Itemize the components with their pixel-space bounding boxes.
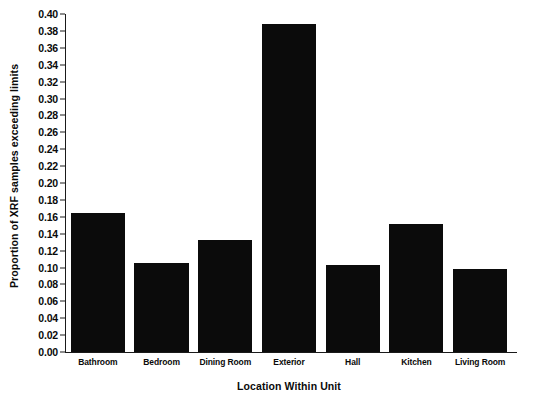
bar	[198, 240, 252, 352]
bar	[71, 213, 125, 352]
bar	[262, 24, 316, 352]
y-axis-tick-label: 0.34	[38, 59, 58, 71]
bar-slot	[257, 14, 321, 352]
plot-area	[66, 14, 512, 352]
bar-slot	[448, 14, 512, 352]
x-axis-tick-label: Dining Room	[199, 357, 251, 367]
bar-slot	[385, 14, 449, 352]
y-axis-tick-label: 0.20	[38, 177, 58, 189]
bar-slot	[130, 14, 194, 352]
y-axis-tick-label: 0.24	[38, 143, 58, 155]
bar-slot	[66, 14, 130, 352]
y-axis-tick-label: 0.00	[38, 346, 58, 358]
y-axis-tick-label: 0.10	[38, 262, 58, 274]
bar-slot	[193, 14, 257, 352]
bar-chart-figure: Proportion of XRF samples exceeding limi…	[0, 0, 536, 405]
bar-slot	[321, 14, 385, 352]
y-axis-tick-label: 0.02	[38, 329, 58, 341]
x-axis-tick-label: Bathroom	[78, 357, 117, 367]
y-axis-tick-label: 0.36	[38, 42, 58, 54]
y-axis-tick-label: 0.04	[38, 312, 58, 324]
y-axis-tick-label: 0.28	[38, 109, 58, 121]
y-axis-title: Proportion of XRF samples exceeding limi…	[2, 0, 26, 352]
y-axis-tick-label: 0.38	[38, 25, 58, 37]
x-axis-tick-label: Living Room	[455, 357, 505, 367]
bar	[326, 265, 380, 352]
y-axis-tick-label: 0.14	[38, 228, 58, 240]
y-axis-tick-label: 0.06	[38, 295, 58, 307]
y-axis-tick-label: 0.26	[38, 126, 58, 138]
y-axis-tick-label: 0.12	[38, 245, 58, 257]
x-axis-line	[65, 352, 517, 353]
y-axis-tick-labels: 0.000.020.040.060.080.100.120.140.160.18…	[24, 8, 58, 360]
x-axis-tick-label: Kitchen	[401, 357, 431, 367]
x-axis-title: Location Within Unit	[66, 380, 512, 392]
y-axis-tick-label: 0.22	[38, 160, 58, 172]
y-axis-tick-label: 0.16	[38, 211, 58, 223]
y-axis-tick-label: 0.40	[38, 8, 58, 20]
y-axis-title-text: Proportion of XRF samples exceeding limi…	[8, 64, 20, 288]
x-axis-tick-label: Exterior	[273, 357, 304, 367]
y-axis-tick-label: 0.08	[38, 278, 58, 290]
y-axis-tick-label: 0.18	[38, 194, 58, 206]
bar	[134, 263, 188, 352]
y-axis-tick-label: 0.30	[38, 93, 58, 105]
x-axis-tick-label: Bedroom	[143, 357, 180, 367]
x-axis-tick-labels: BathroomBedroomDining RoomExteriorHallKi…	[66, 357, 512, 375]
bar	[453, 269, 507, 352]
bar	[389, 224, 443, 352]
x-axis-tick-label: Hall	[345, 357, 360, 367]
y-axis-tick-label: 0.32	[38, 76, 58, 88]
